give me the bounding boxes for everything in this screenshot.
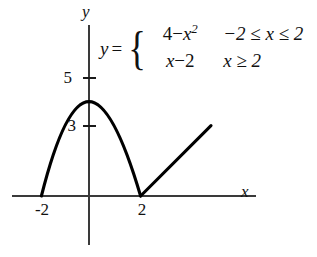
equation-cases: 4−x2 −2 ≤ x ≤ 2 x−2 x ≥ 2 bbox=[149, 22, 303, 76]
equation-lhs: y bbox=[100, 39, 111, 59]
case-expression: 4−x2 bbox=[149, 22, 211, 44]
y-tick-label-3: 3 bbox=[60, 116, 76, 136]
piecewise-equation: y = { 4−x2 −2 ≤ x ≤ 2 x−2 x ≥ 2 bbox=[100, 22, 303, 76]
x-tick-label-neg2: -2 bbox=[28, 200, 56, 220]
case-expression-operator: − bbox=[172, 23, 183, 44]
x-tick-label-2: 2 bbox=[132, 200, 152, 220]
y-tick-label-5: 5 bbox=[56, 68, 72, 88]
case-expression-lead: 4 bbox=[163, 23, 173, 44]
case-expression-exponent: 2 bbox=[191, 21, 197, 36]
case-expression-operator: − bbox=[174, 50, 185, 71]
case-row: 4−x2 −2 ≤ x ≤ 2 bbox=[149, 22, 303, 49]
case-row: x−2 x ≥ 2 bbox=[149, 49, 303, 76]
linear-segment bbox=[141, 126, 211, 196]
left-brace-icon: { bbox=[128, 30, 146, 68]
parabola-curve bbox=[41, 102, 140, 196]
case-condition: −2 ≤ x ≤ 2 bbox=[211, 24, 303, 44]
y-axis-label: y bbox=[82, 2, 90, 22]
equation-equals-sign: = bbox=[111, 39, 126, 59]
case-condition: x ≥ 2 bbox=[211, 51, 261, 71]
x-axis-label: x bbox=[241, 182, 249, 202]
case-expression: x−2 bbox=[149, 49, 211, 71]
case-expression-variable: 2 bbox=[185, 50, 195, 71]
